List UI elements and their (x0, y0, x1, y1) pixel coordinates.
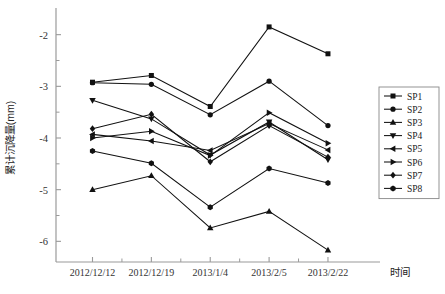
legend-label: SP2 (407, 105, 423, 115)
legend-label: SP1 (407, 92, 423, 102)
data-point (207, 147, 213, 154)
data-point (208, 112, 213, 117)
series-sp3 (89, 172, 331, 252)
x-tick-label: 2013/2/22 (308, 267, 349, 278)
legend-marker (390, 107, 395, 112)
data-point (325, 247, 332, 253)
legend-box (379, 87, 439, 199)
legend-label: SP8 (407, 184, 423, 194)
data-point (149, 160, 154, 166)
y-tick-label: -3 (39, 81, 48, 92)
x-tick-label: 2013/1/4 (192, 267, 228, 278)
data-point (266, 208, 273, 214)
data-point (90, 125, 96, 132)
data-point (267, 165, 272, 171)
data-point (90, 80, 95, 85)
data-point (325, 180, 330, 186)
legend-label: SP7 (407, 171, 423, 181)
data-point (325, 123, 330, 128)
settlement-line-chart: -2-3-4-5-62012/12/122012/12/192013/1/420… (0, 0, 445, 294)
data-point (267, 24, 272, 29)
data-point (148, 172, 155, 178)
x-axis-title: 时间 (390, 266, 410, 278)
chart-canvas: -2-3-4-5-62012/12/122012/12/192013/1/420… (0, 0, 445, 294)
data-point (149, 73, 154, 78)
series-line (93, 176, 328, 250)
series-sp1 (90, 24, 330, 109)
y-tick-label: -5 (39, 185, 48, 196)
legend-marker (391, 94, 396, 99)
data-point (325, 51, 330, 56)
data-point (149, 82, 154, 87)
data-point (148, 138, 154, 145)
y-tick-label: -4 (39, 133, 48, 144)
y-axis-title: 累计沉降量(mm) (4, 101, 16, 176)
data-point (266, 79, 271, 84)
data-point (90, 148, 95, 154)
x-tick-label: 2013/2/5 (251, 267, 287, 278)
data-point (149, 128, 155, 135)
y-tick-label: -6 (39, 236, 48, 247)
data-point (325, 147, 331, 154)
series-line (93, 27, 328, 107)
data-point (208, 104, 213, 109)
legend: SP1SP2SP3SP4SP5SP6SP7SP8 (379, 87, 439, 199)
data-point (326, 140, 332, 147)
data-point (267, 109, 273, 116)
legend-label: SP4 (407, 131, 423, 141)
series-line (93, 81, 328, 125)
legend-label: SP6 (407, 158, 423, 168)
legend-label: SP3 (407, 118, 423, 128)
y-tick-label: -2 (39, 30, 48, 41)
data-point (207, 158, 213, 165)
legend-label: SP5 (407, 144, 423, 154)
data-point (208, 204, 213, 210)
x-tick-label: 2012/12/19 (129, 267, 175, 278)
x-tick-label: 2012/12/12 (70, 267, 116, 278)
